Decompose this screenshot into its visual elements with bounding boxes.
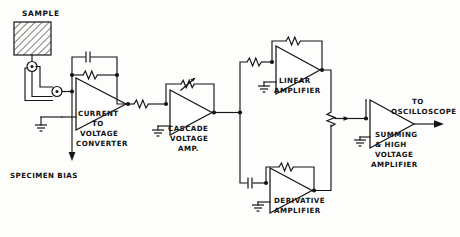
derivative-amplifier-group: DERIVATIVE AMPLIFIER [248, 125, 331, 215]
coax-shield-return [25, 68, 53, 101]
to-oscilloscope-line-1: OSCILLOSCOPE [391, 107, 457, 116]
ground-cascade [152, 126, 164, 136]
summing-input-potentiometer-group [327, 100, 368, 126]
ctv-cap-lead-right [91, 57, 117, 75]
linear-label-line-1: AMPLIFIER [274, 86, 321, 95]
to-oscilloscope-arrow [434, 120, 444, 128]
linear-amplifier-group: LINEAR AMPLIFIER [247, 37, 331, 112]
summing-label-line-1: & HIGH [375, 140, 407, 149]
cascade-label-line-2: AMP. [178, 144, 199, 153]
connector-lower-pin [56, 90, 59, 93]
sample-hatched-box [14, 22, 51, 55]
series-resistor-linear [247, 58, 261, 66]
feedback-resistor-derivative [279, 163, 293, 171]
specimen-bias-group: SPECIMEN BIAS [10, 92, 78, 181]
sample-block-group: SAMPLE [14, 9, 60, 62]
ctv-label-line-1: TO [92, 119, 104, 128]
ground-input-stage [35, 117, 62, 131]
split-down-to-derivative [240, 113, 247, 184]
linear-label-line-0: LINEAR [279, 76, 311, 85]
linear-output-down [322, 70, 331, 112]
circuit-diagram: SAMPLE [0, 0, 460, 237]
specimen-bias-arrow [69, 152, 76, 161]
derivative-output-up [314, 125, 331, 191]
derivative-label-line-0: DERIVATIVE [274, 196, 325, 205]
summing-label-line-2: VOLTAGE [375, 150, 413, 159]
series-resistor-1 [134, 100, 148, 108]
summing-high-voltage-amplifier-group: SUMMING & HIGH VOLTAGE AMPLIFIER TO OSCI… [354, 97, 457, 169]
ground-summing [354, 137, 366, 146]
cascade-input-network [128, 100, 168, 108]
feedback-resistor-linear [286, 37, 300, 45]
coax-connector-group [25, 62, 72, 101]
split-up-to-linear [240, 62, 247, 113]
coax-center-inner [36, 67, 53, 88]
summing-label-line-0: SUMMING [375, 130, 418, 139]
to-oscilloscope-line-0: TO [412, 97, 424, 106]
current-to-voltage-converter-group: CURRENT TO VOLTAGE CONVERTER [35, 52, 130, 149]
cascade-label-line-1: VOLTAGE [170, 134, 208, 143]
connector-upper-pin [31, 65, 34, 68]
feedback-resistor-1 [83, 71, 97, 79]
cascade-voltage-amp-group: CASCADE VOLTAGE AMP. [152, 78, 242, 153]
sample-label: SAMPLE [22, 9, 60, 18]
ground-derivative [252, 202, 264, 211]
ground-linear [258, 82, 270, 92]
gain-potentiometer-summing [327, 112, 335, 126]
ctv-cap-lead-left [72, 57, 85, 75]
derivative-label-line-1: AMPLIFIER [274, 206, 321, 215]
summing-label-line-3: AMPLIFIER [371, 160, 418, 169]
specimen-bias-label: SPECIMEN BIAS [10, 171, 78, 180]
cascade-label-line-0: CASCADE [168, 124, 208, 133]
cascade-split-wires [240, 62, 247, 183]
coax-shield-outer [32, 72, 52, 97]
schematic-canvas: SAMPLE [0, 0, 460, 237]
ctv-label-line-0: CURRENT [78, 109, 119, 118]
ctv-label-line-3: CONVERTER [76, 139, 128, 148]
ctv-label-line-2: VOLTAGE [80, 129, 118, 138]
